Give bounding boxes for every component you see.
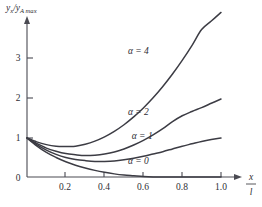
x-ticklabel-1: 0.4 <box>98 182 110 192</box>
chart-canvas: yx/yA max 1 2 3 0 <box>0 0 262 207</box>
x-ticklabel-3: 0.8 <box>176 182 188 192</box>
x-axis-label-numerator: x <box>248 172 254 182</box>
x-ticklabel-4: 1.0 <box>215 182 227 192</box>
curve-alpha-4 <box>27 12 221 146</box>
curve-label-alpha-0: α = 0 <box>128 156 149 166</box>
y-ticklabel-3: 3 <box>16 53 21 63</box>
x-axis-label: x l <box>246 172 256 197</box>
x-axis-label-denominator: l <box>250 187 253 197</box>
curve-label-alpha-1: α = 1 <box>132 131 153 141</box>
chart-figure: yx/yA max 1 2 3 0 <box>0 0 262 207</box>
y-ticklabel-2: 2 <box>16 93 21 103</box>
y-axis-label: yx/yA max <box>5 3 37 14</box>
y-axis-label-denominator-sub: A max <box>19 7 37 14</box>
y-axis-ticks <box>27 58 33 138</box>
curve-alpha-2 <box>27 99 221 156</box>
curve-label-alpha-4: α = 4 <box>128 46 149 56</box>
origin-label: 0 <box>16 173 21 183</box>
curves-group <box>27 12 221 177</box>
curve-label-alpha-2: α = 2 <box>128 107 149 117</box>
y-ticklabel-1: 1 <box>16 133 21 143</box>
x-ticklabel-0: 0.2 <box>59 182 71 192</box>
y-axis-arrowhead <box>24 16 30 24</box>
y-axis-ticklabels: 1 2 3 <box>16 53 21 143</box>
svg-text:yx/yA max: yx/yA max <box>5 3 37 14</box>
x-axis-ticklabels: 0.2 0.4 0.6 0.8 1.0 <box>59 182 227 192</box>
curve-labels-group: α = 4 α = 2 α = 1 α = 0 <box>128 46 153 166</box>
x-ticklabel-2: 0.6 <box>137 182 149 192</box>
x-axis-arrowhead <box>234 174 242 180</box>
